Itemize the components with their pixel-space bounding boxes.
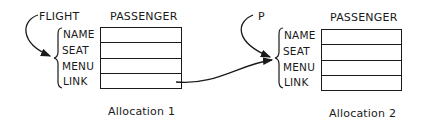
caption-2: Allocation 2 bbox=[329, 108, 396, 119]
record-title-2: PASSENGER bbox=[330, 12, 398, 23]
row-divider bbox=[101, 73, 181, 74]
record-box-1 bbox=[100, 27, 182, 89]
field-name-1: NAME bbox=[63, 29, 95, 40]
caption-1: Allocation 1 bbox=[108, 106, 175, 117]
row-divider bbox=[322, 60, 401, 61]
p-pointer-arrow bbox=[241, 15, 270, 57]
field-seat-2: SEAT bbox=[283, 46, 310, 57]
field-link-2: LINK bbox=[284, 77, 309, 88]
field-menu-2: MENU bbox=[283, 62, 315, 73]
link-arrow bbox=[176, 60, 272, 82]
pointer-label-p: P bbox=[258, 11, 265, 22]
pointer-label-flight: FLIGHT bbox=[39, 11, 79, 22]
brace-right bbox=[275, 28, 283, 88]
row-divider bbox=[322, 75, 401, 76]
record-title-1: PASSENGER bbox=[110, 11, 178, 22]
row-divider bbox=[101, 42, 181, 43]
field-name-2: NAME bbox=[284, 30, 316, 41]
field-link-1: LINK bbox=[63, 76, 88, 87]
brace-left bbox=[54, 28, 62, 88]
field-seat-1: SEAT bbox=[62, 45, 89, 56]
row-divider bbox=[322, 44, 401, 45]
field-menu-1: MENU bbox=[62, 61, 94, 72]
row-divider bbox=[101, 58, 181, 59]
record-box-2 bbox=[321, 29, 402, 91]
